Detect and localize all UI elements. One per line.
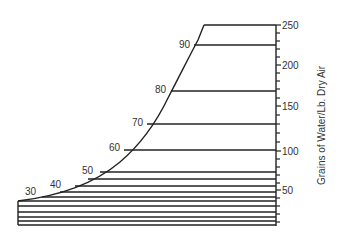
saturation-curve — [18, 25, 204, 201]
y-axis-ticks — [276, 25, 281, 222]
curve-labels: 30 40 50 60 70 80 90 — [25, 39, 191, 197]
y-tick-150: 150 — [282, 101, 299, 112]
moisture-saturation-chart: 250 200 150 100 50 30 40 50 60 70 80 90 … — [0, 0, 340, 239]
curve-label-50: 50 — [82, 165, 94, 176]
curve-label-40: 40 — [50, 179, 62, 190]
y-tick-250: 250 — [282, 20, 299, 31]
y-axis-title: Grains of Water/Lb. Dry Air — [316, 65, 327, 185]
y-tick-200: 200 — [282, 60, 299, 71]
y-tick-labels: 250 200 150 100 50 — [282, 20, 299, 196]
curve-label-30: 30 — [25, 186, 37, 197]
y-tick-100: 100 — [282, 146, 299, 157]
y-tick-50: 50 — [282, 185, 294, 196]
chart-lines — [18, 25, 276, 226]
curve-label-60: 60 — [109, 142, 121, 153]
curve-label-70: 70 — [132, 117, 144, 128]
curve-label-90: 90 — [179, 39, 191, 50]
curve-label-80: 80 — [155, 84, 167, 95]
